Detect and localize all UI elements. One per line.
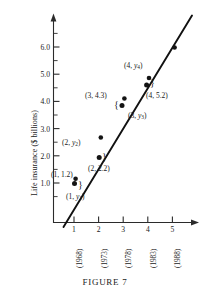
y-tick-label-1: 1.0 bbox=[28, 180, 50, 188]
y-tick-label-5: 5.0 bbox=[28, 71, 50, 79]
x-year-label-1988: (1988) bbox=[175, 249, 182, 268]
x-tick-label-2: 2 bbox=[93, 226, 105, 234]
brace-point-1: } bbox=[78, 180, 83, 190]
figure-caption: FIGURE 7 bbox=[0, 277, 210, 287]
x-axis-ticks bbox=[74, 217, 172, 223]
x-year-label-1983: (1983) bbox=[151, 249, 158, 268]
x-year-label-1978: (1978) bbox=[126, 249, 133, 268]
brace-point-2: } bbox=[102, 152, 107, 162]
x-year-label-1973: (1973) bbox=[102, 249, 109, 268]
point-label-2-data: (2, 2.2) bbox=[88, 165, 110, 173]
brace-point-4: } bbox=[150, 78, 155, 88]
point-label-1-predicted: (1, y1) bbox=[66, 193, 85, 202]
x-tick-label-3: 3 bbox=[117, 226, 129, 234]
y-tick-label-6: 6.0 bbox=[28, 44, 50, 52]
x-tick-label-4: 4 bbox=[142, 226, 154, 234]
y-tick-label-4: 4.0 bbox=[28, 98, 50, 106]
brace-point-3: { bbox=[114, 100, 119, 110]
figure-7-chart: Life insurance ($ billions) 1.0 2.0 3.0 … bbox=[0, 0, 210, 302]
y-tick-label-3: 3.0 bbox=[28, 126, 50, 134]
y-tick-label-2: 2.0 bbox=[28, 153, 50, 161]
point-label-4-data: (4, 5.2) bbox=[146, 92, 168, 100]
point-label-3-data: (3, 4.3) bbox=[85, 92, 107, 100]
x-tick-label-5: 5 bbox=[166, 226, 178, 234]
data-points-observed bbox=[72, 83, 149, 187]
point-label-1-data: (1, 1.2) bbox=[51, 171, 73, 179]
x-year-label-1968: (1968) bbox=[77, 249, 84, 268]
x-axis-arrowhead bbox=[191, 220, 199, 226]
point-label-3-predicted: (3, y3) bbox=[128, 112, 147, 121]
point-label-4-predicted: (4, y4) bbox=[124, 62, 143, 71]
point-label-2-predicted: (2, y2) bbox=[62, 139, 81, 148]
x-tick-label-1: 1 bbox=[68, 226, 80, 234]
y-axis-arrowhead bbox=[51, 14, 57, 22]
